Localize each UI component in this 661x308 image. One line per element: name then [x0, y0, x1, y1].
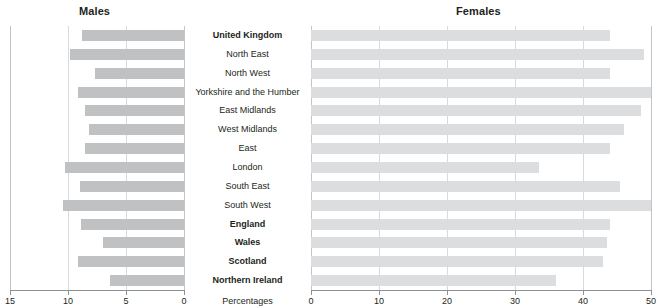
- bar-female-4: [311, 105, 641, 116]
- females-tick-label-20: 20: [442, 296, 452, 307]
- females-tick-label-40: 40: [578, 296, 588, 307]
- chart-page: Males Females Percentages 15105001020304…: [0, 0, 661, 308]
- females-panel-title: Females: [456, 5, 501, 17]
- bar-female-13: [311, 275, 556, 286]
- category-label-11: Wales: [184, 237, 311, 248]
- category-label-10: England: [184, 219, 311, 230]
- males-tick-label-5: 5: [123, 296, 128, 307]
- bar-female-0: [311, 30, 610, 41]
- bar-male-3: [78, 87, 184, 98]
- females-plot-area: [311, 26, 651, 290]
- bar-female-3: [311, 87, 651, 98]
- bar-male-7: [65, 162, 184, 173]
- females-tick-40: [583, 290, 584, 295]
- bar-male-5: [89, 124, 184, 135]
- females-tick-10: [379, 290, 380, 295]
- males-axis-line: [10, 290, 185, 291]
- category-label-6: East: [184, 143, 311, 154]
- bar-female-5: [311, 124, 624, 135]
- females-gridline-30: [515, 26, 516, 290]
- males-tick-15: [10, 290, 11, 295]
- bar-female-11: [311, 237, 607, 248]
- females-tick-label-50: 50: [646, 296, 656, 307]
- bar-female-6: [311, 143, 610, 154]
- females-gridline-20: [447, 26, 448, 290]
- category-label-0: United Kingdom: [184, 30, 311, 41]
- category-label-4: East Midlands: [184, 105, 311, 116]
- category-label-12: Scotland: [184, 256, 311, 267]
- bar-male-9: [63, 200, 184, 211]
- females-tick-label-0: 0: [308, 296, 313, 307]
- bar-female-12: [311, 256, 603, 267]
- bar-female-1: [311, 49, 644, 60]
- females-tick-30: [515, 290, 516, 295]
- males-tick-label-0: 0: [181, 296, 186, 307]
- bar-male-1: [70, 49, 184, 60]
- bar-male-12: [78, 256, 184, 267]
- category-label-8: South East: [184, 181, 311, 192]
- percentages-axis-label: Percentages: [184, 296, 311, 307]
- bar-female-8: [311, 181, 620, 192]
- bar-female-7: [311, 162, 539, 173]
- females-tick-label-10: 10: [374, 296, 384, 307]
- males-tick-0: [184, 290, 185, 295]
- bar-male-13: [110, 275, 184, 286]
- males-tick-10: [68, 290, 69, 295]
- bar-male-0: [82, 30, 184, 41]
- males-tick-label-10: 10: [63, 296, 73, 307]
- females-tick-50: [651, 290, 652, 295]
- category-label-column: [184, 26, 311, 290]
- bar-male-6: [85, 143, 184, 154]
- females-axis-line: [311, 290, 652, 291]
- males-plot-area: [10, 26, 184, 290]
- males-panel-title: Males: [79, 5, 110, 17]
- females-tick-20: [447, 290, 448, 295]
- females-gridline-10: [379, 26, 380, 290]
- females-tick-0: [311, 290, 312, 295]
- males-tick-label-15: 15: [5, 296, 15, 307]
- females-gridline-40: [583, 26, 584, 290]
- category-label-9: South West: [184, 200, 311, 211]
- category-label-7: London: [184, 162, 311, 173]
- category-label-1: North East: [184, 49, 311, 60]
- category-label-3: Yorkshire and the Humber: [184, 87, 311, 98]
- category-label-13: Northern Ireland: [184, 275, 311, 286]
- category-label-2: North West: [184, 68, 311, 79]
- females-gridline-50: [651, 26, 652, 290]
- females-tick-label-30: 30: [510, 296, 520, 307]
- males-tick-5: [126, 290, 127, 295]
- bar-female-2: [311, 68, 610, 79]
- males-gridline-15: [10, 26, 11, 290]
- bar-male-11: [103, 237, 184, 248]
- males-gridline-10: [68, 26, 69, 290]
- bar-male-2: [95, 68, 184, 79]
- category-label-5: West Midlands: [184, 124, 311, 135]
- label-column-border-left: [184, 26, 185, 290]
- males-gridline-5: [126, 26, 127, 290]
- bar-female-10: [311, 219, 610, 230]
- bar-female-9: [311, 200, 651, 211]
- label-column-border-right: [311, 26, 312, 290]
- bar-male-8: [80, 181, 184, 192]
- bar-male-10: [81, 219, 184, 230]
- bar-male-4: [85, 105, 184, 116]
